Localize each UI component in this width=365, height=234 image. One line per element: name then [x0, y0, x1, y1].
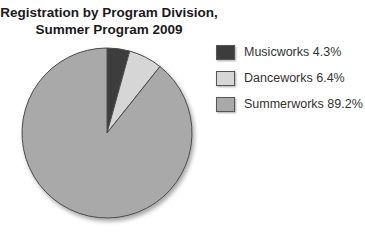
legend-label-summerworks: Summerworks 89.2%	[244, 97, 363, 111]
legend-item-summerworks: Summerworks 89.2%	[216, 96, 363, 112]
pie-slice-summerworks	[22, 48, 192, 218]
legend-label-danceworks: Danceworks 6.4%	[244, 71, 345, 85]
legend-swatch-danceworks	[216, 71, 235, 86]
legend-swatch-summerworks	[216, 97, 235, 112]
legend-label-musicworks: Musicworks 4.3%	[244, 45, 341, 59]
legend-swatch-musicworks	[216, 45, 235, 60]
legend-item-musicworks: Musicworks 4.3%	[216, 44, 363, 60]
legend: Musicworks 4.3% Danceworks 6.4% Summerwo…	[216, 44, 363, 122]
pie-slices	[22, 48, 192, 218]
legend-item-danceworks: Danceworks 6.4%	[216, 70, 363, 86]
